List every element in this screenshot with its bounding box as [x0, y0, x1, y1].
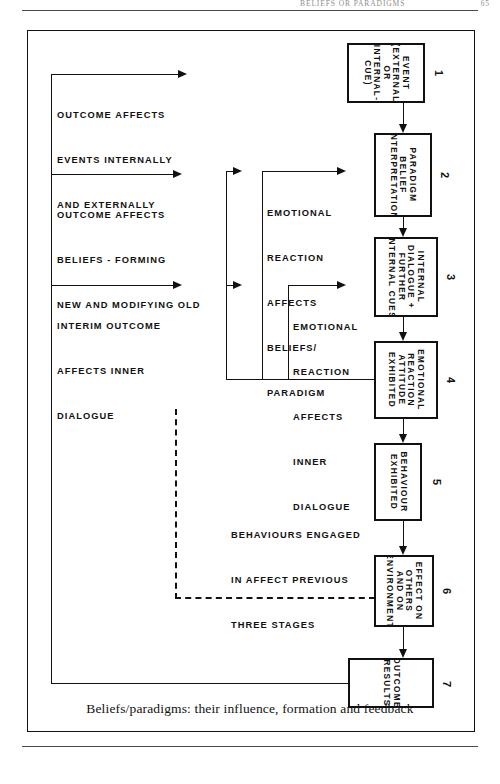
feedback-bus-spine: [51, 74, 52, 684]
step-number-2: 2: [439, 168, 451, 182]
edge-5-6-arrowhead: [399, 546, 407, 555]
header-rule: [22, 10, 478, 11]
dashed-feedback-spine: [175, 409, 177, 599]
edge-3-4: [403, 317, 404, 333]
node-paradigm: PARADIGM BELIEF INTERPRETATION: [374, 133, 432, 217]
edge-6-7-arrowhead: [399, 649, 407, 658]
step-number-5: 5: [431, 475, 443, 489]
step-number-1: 1: [433, 66, 445, 80]
node-event: EVENT (EXTERNAL OR INTERNAL- CUE): [347, 43, 425, 103]
node-effect: EFFECT ON OTHERS AND ON ENVIRONMENT: [374, 555, 434, 627]
note5-arrowhead: [337, 281, 346, 289]
note4-spine: [262, 171, 263, 379]
edge-6-7: [403, 627, 404, 650]
edge-4-5-arrowhead: [399, 434, 407, 443]
node-event-label: EVENT (EXTERNAL OR INTERNAL- CUE): [362, 43, 410, 102]
node-emotional-reaction: EMOTIONAL REACTION ATTITUDE EXHIBITED: [374, 341, 438, 419]
note-behaviours-engaged: BEHAVIOURS ENGAGED IN AFFECT PREVIOUS TH…: [231, 498, 361, 663]
figure-caption: Beliefs/paradigms: their influence, form…: [27, 694, 473, 724]
edge-3-4-arrowhead: [399, 332, 407, 341]
node-internal-dialogue: INTERNAL DIALOGUE + FURTHER INTERNAL CUE…: [374, 237, 438, 317]
node-effect-label: EFFECT ON OTHERS AND ON ENVIRONMENT: [385, 555, 423, 627]
er-branch-dialogue-arrowhead: [233, 281, 242, 289]
edge-2-3-arrowhead: [399, 228, 407, 237]
note-interim-outcome: INTERIM OUTCOME AFFECTS INNER DIALOGUE: [57, 289, 161, 454]
feedback-branch-1: [51, 74, 180, 75]
node-emotional-reaction-label: EMOTIONAL REACTION ATTITUDE EXHIBITED: [387, 349, 425, 410]
page-number: 65: [481, 0, 490, 8]
feedback-branch-1-arrowhead: [178, 70, 187, 78]
feedback-bus-bottom: [51, 683, 349, 684]
node-behaviour: BEHAVIOUR EXHIBITED: [374, 443, 422, 521]
note4-arrowhead: [337, 167, 346, 175]
node-behaviour-label: BEHAVIOUR EXHIBITED: [388, 452, 407, 513]
er-bus-spine: [226, 171, 227, 380]
node-paradigm-label: PARADIGM BELIEF INTERPRETATION: [389, 133, 418, 217]
step-number-3: 3: [445, 270, 457, 284]
step-number-7: 7: [441, 677, 453, 691]
node-internal-dialogue-label: INTERNAL DIALOGUE + FURTHER INTERNAL CUE…: [387, 237, 425, 317]
edge-4-5: [403, 419, 404, 435]
step-number-6: 6: [441, 584, 453, 598]
edge-1-2-arrowhead: [399, 124, 407, 133]
er-branch-paradigm-arrowhead: [233, 167, 242, 175]
running-head-title: BELIEFS OR PARADIGMS: [300, 0, 405, 8]
edge-5-6: [403, 521, 404, 547]
feedback-branch-2-arrowhead: [173, 170, 182, 178]
note4-top: [262, 171, 339, 172]
page-canvas: 65 BELIEFS OR PARADIGMS EVENT (EXTERNAL …: [0, 0, 500, 784]
edge-1-2: [403, 103, 404, 125]
step-number-4: 4: [445, 373, 457, 387]
footer-rule: [22, 746, 478, 747]
